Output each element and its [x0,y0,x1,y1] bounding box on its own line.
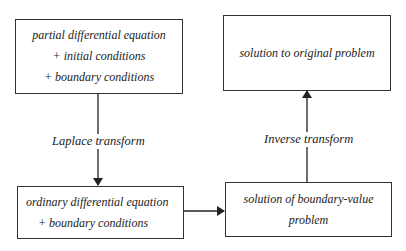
ode-line-2: + boundary conditions [26,213,148,234]
pde-line-2: + initial conditions [53,46,146,67]
inverse-transform-label: Inverse transform [262,132,355,147]
ode-line-1: ordinary differential equation [26,192,168,213]
solution-original-box: solution to original problem [223,15,391,91]
pde-line-1: partial differential equation [32,25,166,46]
laplace-transform-label: Laplace transform [50,134,147,149]
pde-line-3: + boundary conditions [44,67,154,88]
solution-original-line-1: solution to original problem [239,43,374,64]
solution-bvp-box: solution of boundary-value problem [225,182,392,237]
solution-bvp-line-2: problem [289,210,329,231]
pde-box: partial differential equation + initial … [15,19,183,94]
solution-bvp-line-1: solution of boundary-value [244,189,374,210]
ode-box: ordinary differential equation + boundar… [17,186,184,239]
